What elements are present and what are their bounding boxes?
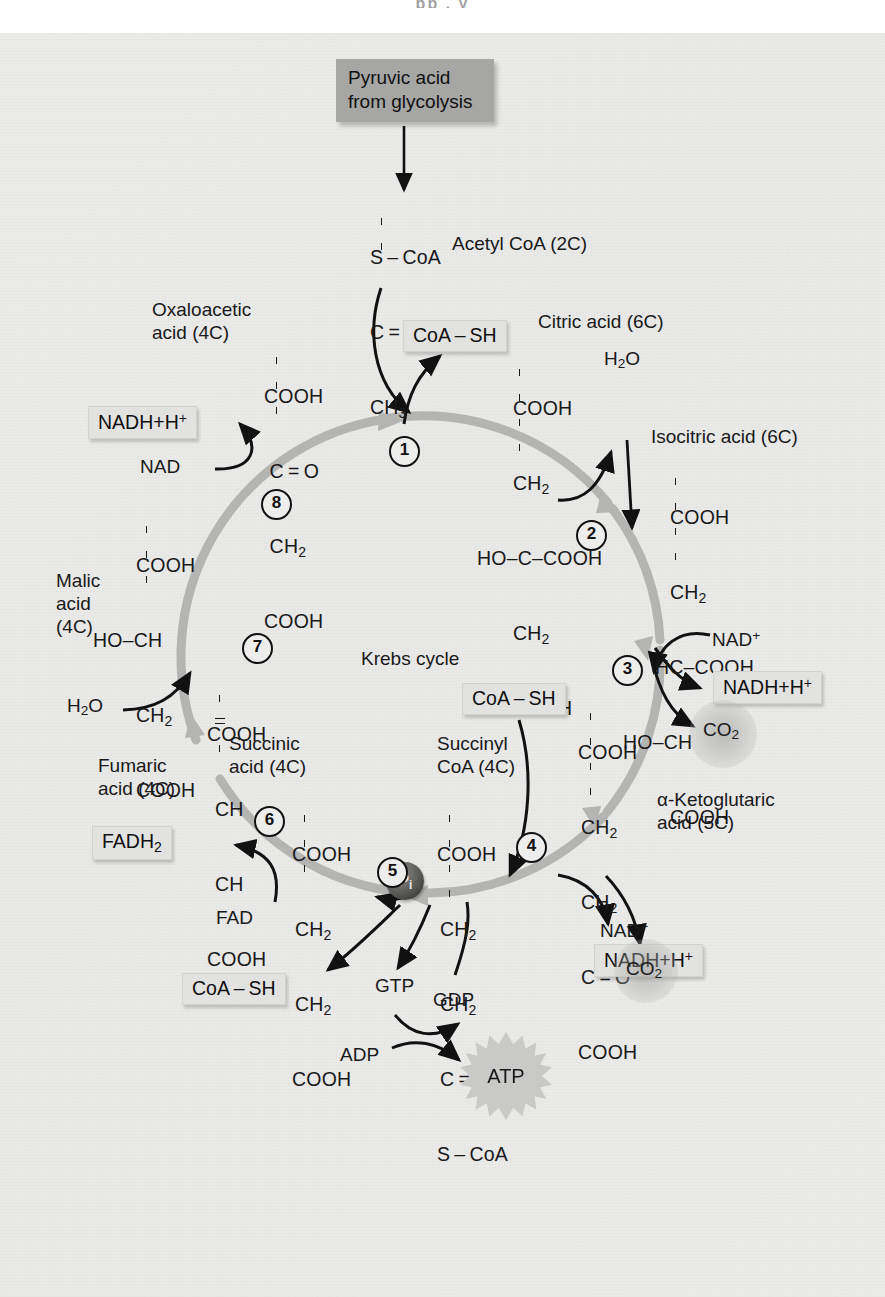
oxaloacetic-row-1: C = O xyxy=(264,459,323,484)
step-4-marker: 4 xyxy=(516,832,547,863)
bond-tick xyxy=(590,738,591,745)
alpha-ketoglutaric-label-line2: acid (5C) xyxy=(657,812,734,834)
fumaric-row-3: COOH xyxy=(207,947,266,972)
bond-tick xyxy=(304,840,305,847)
bond-tick xyxy=(146,551,147,558)
akg-row-4: COOH xyxy=(578,1040,637,1065)
nadh-product-step3: NADH+H+ xyxy=(713,671,822,704)
gtp-label: GTP xyxy=(375,975,414,997)
nadh-product-step8: NADH+H+ xyxy=(88,406,197,439)
acetyl-coa-label: Acetyl CoA (2C) xyxy=(452,233,587,255)
oxaloacetic-acid-label-line2: acid (4C) xyxy=(152,322,229,344)
akg-row-2: CH2 xyxy=(578,890,637,915)
bond-tick xyxy=(449,890,450,897)
succinic-row-2: CH2 xyxy=(292,992,351,1017)
malic-row-0: COOH xyxy=(93,553,195,578)
bond-tick xyxy=(219,745,220,752)
bond-tick xyxy=(675,553,676,560)
fumaric-acid-structure: COOH CH CH COOH xyxy=(207,672,266,1022)
step-3-marker: 3 xyxy=(612,655,643,686)
center-label: Krebs cycle xyxy=(361,648,459,670)
oxaloacetic-acid-label-line1: Oxaloacetic xyxy=(152,299,251,321)
krebs-cycle-figure: pp , y xyxy=(0,0,885,1297)
malic-row-1: HO–CH xyxy=(93,628,195,653)
pyruvic-acid-source-box: Pyruvic acid from glycolysis xyxy=(336,59,494,122)
double-bond-tick xyxy=(215,723,225,724)
alpha-ketoglutaric-structure: COOH CH2 CH2 C = O COOH xyxy=(578,690,637,1115)
coash-reactant-step4: CoA – SH xyxy=(462,683,566,715)
page-top-text-remnant: pp , y xyxy=(0,0,885,8)
succoa-row-0: COOH xyxy=(437,842,508,867)
step-2-marker: 2 xyxy=(576,520,607,551)
akg-row-0: COOH xyxy=(578,740,637,765)
bond-tick xyxy=(675,478,676,485)
succoa-row-1: CH2 xyxy=(437,917,508,942)
akg-row-1: CH2 xyxy=(578,815,637,840)
step-1-marker: 1 xyxy=(389,436,420,467)
bond-tick xyxy=(146,576,147,583)
nad-reactant-step4: NAD+ xyxy=(600,916,648,942)
coash-product-step5: CoA – SH xyxy=(182,973,286,1005)
pyruvic-acid-line2: from glycolysis xyxy=(348,90,484,114)
succinyl-coa-label-line2: CoA (4C) xyxy=(437,756,515,778)
citric-row-3: CH2 xyxy=(477,621,602,646)
isocitric-row-1: CH2 xyxy=(623,580,754,605)
bond-tick xyxy=(219,695,220,702)
bond-tick xyxy=(146,526,147,533)
step-6-marker: 6 xyxy=(254,806,285,837)
bond-tick xyxy=(381,243,382,250)
bond-tick xyxy=(519,444,520,451)
co2-product-step4: CO2 xyxy=(626,958,662,985)
alpha-ketoglutaric-label-line1: α-Ketoglutaric xyxy=(657,789,775,811)
succinic-acid-structure: COOH CH2 CH2 COOH xyxy=(292,792,351,1142)
bond-tick xyxy=(590,713,591,720)
bond-tick xyxy=(449,865,450,872)
fumaric-row-0: COOH xyxy=(207,722,266,747)
bond-tick xyxy=(304,815,305,822)
acetyl-coa-row-2: CH3 xyxy=(370,395,441,420)
isocitric-acid-label: Isocitric acid (6C) xyxy=(651,426,798,448)
bond-tick xyxy=(675,503,676,510)
succinyl-coa-label-line1: Succinyl xyxy=(437,733,508,755)
bond-tick xyxy=(276,382,277,389)
bond-tick xyxy=(519,419,520,426)
malic-row-3: COOH xyxy=(93,778,195,803)
oxaloacetic-row-3: COOH xyxy=(264,609,323,634)
pyruvic-acid-line1: Pyruvic acid xyxy=(348,66,484,90)
malic-row-2: CH2 xyxy=(93,703,195,728)
succinic-row-1: CH2 xyxy=(292,917,351,942)
oxaloacetic-row-2: CH2 xyxy=(264,534,323,559)
bond-tick xyxy=(449,815,450,822)
oxaloacetic-row-0: COOH xyxy=(264,384,323,409)
succinic-row-0: COOH xyxy=(292,842,351,867)
step-7-marker: 7 xyxy=(242,633,273,664)
bond-tick xyxy=(519,369,520,376)
double-bond-tick xyxy=(215,718,225,719)
bond-tick xyxy=(304,865,305,872)
succinic-row-3: COOH xyxy=(292,1067,351,1092)
bond-tick xyxy=(519,394,520,401)
h2o-reactant-step2: H2O xyxy=(604,348,640,375)
bond-tick xyxy=(381,218,382,225)
nad-reactant-step3: NAD+ xyxy=(712,625,760,651)
step-8-marker: 8 xyxy=(261,489,292,520)
citric-row-1: CH2 xyxy=(477,471,602,496)
bond-tick xyxy=(449,840,450,847)
malic-acid-label-line2: acid xyxy=(56,593,91,615)
malic-acid-label-line3: (4C) xyxy=(56,616,93,638)
gdp-label: GDP xyxy=(433,989,474,1011)
nad-reactant-step8: NAD xyxy=(140,456,180,478)
malic-acid-structure: COOH HO–CH CH2 COOH xyxy=(93,503,195,853)
h2o-reactant-step7: H2O xyxy=(67,695,103,722)
fumaric-row-2: CH xyxy=(207,872,266,897)
step-5-marker: 5 xyxy=(377,857,408,888)
succoa-row-4: S – CoA xyxy=(437,1142,508,1167)
isocitric-row-0: COOH xyxy=(623,505,754,530)
citric-row-2: HO–C–COOH xyxy=(477,546,602,571)
bond-tick xyxy=(276,357,277,364)
co2-product-step3: CO2 xyxy=(703,719,739,746)
bond-tick xyxy=(675,528,676,535)
citric-row-0: COOH xyxy=(477,396,602,421)
adp-label: ADP xyxy=(340,1044,379,1066)
bond-tick xyxy=(590,763,591,770)
